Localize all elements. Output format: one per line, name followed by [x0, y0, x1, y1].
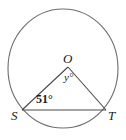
point-label-t: T	[108, 109, 115, 122]
point-label-s: S	[11, 109, 18, 122]
angle-label-y: y°	[64, 72, 73, 83]
point-label-o: O	[63, 52, 72, 65]
segment-OT	[68, 67, 106, 110]
angle-label-51-degrees: 51°	[36, 93, 53, 105]
geometry-figure: O y° 51° S T	[0, 0, 126, 140]
